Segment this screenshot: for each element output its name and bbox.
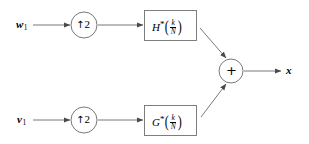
filter-h-expression: H*(kN)	[152, 19, 182, 37]
filter-g-argument: kN	[170, 114, 177, 132]
adder-operator: +	[226, 64, 237, 77]
upsampler-bottom-label: ↑2	[76, 114, 90, 125]
filter-h-argument-denominator: N	[171, 28, 176, 36]
filter-h-argument: kN	[170, 19, 177, 37]
filter-g-expression: G*(kN)	[152, 114, 182, 132]
filter-h-argument-numerator: k	[172, 19, 175, 27]
input-signal-w1: w1	[16, 19, 28, 32]
upsampler-top-factor: 2	[84, 18, 90, 30]
input-signal-v1: v1	[17, 114, 26, 127]
filter-h-open-paren: (	[165, 19, 169, 35]
output-signal-x: x	[286, 65, 292, 76]
filter-g-argument-denominator: N	[171, 123, 176, 131]
filter-h-close-paren: )	[177, 19, 181, 35]
connector-filter-h-to-adder	[200, 28, 226, 58]
input-signal-v1-subscript: 1	[22, 118, 26, 127]
filter-g-argument-numerator: k	[172, 114, 175, 122]
input-signal-w1-subscript: 1	[23, 23, 27, 32]
connector-filter-g-to-adder	[201, 84, 226, 117]
output-signal-x-symbol: x	[286, 64, 292, 76]
upsampler-top-label: ↑2	[76, 19, 90, 30]
filter-g-open-paren: (	[165, 114, 169, 130]
filter-h-name: H	[152, 22, 160, 33]
filter-g-close-paren: )	[177, 114, 181, 130]
filter-g-name: G	[152, 117, 160, 128]
signal-flow-diagram: w1 ↑2 H*(kN) v1 ↑2 G*(kN) + x	[0, 0, 309, 144]
upsampler-bottom-factor: 2	[84, 113, 90, 125]
